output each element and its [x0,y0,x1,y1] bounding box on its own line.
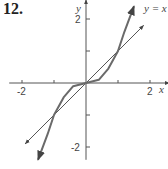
x-tick-label: -2 [17,86,26,97]
x-axis-label: x [158,83,164,95]
y-tick-label: 2 [75,14,81,25]
y-tick-label: -2 [71,142,80,153]
line-y-equals-x [25,25,143,143]
line-annotation: y = x [143,2,167,14]
y-axis-label: y [75,2,81,14]
x-tick-label: 2 [147,86,153,97]
graph: yx2-2-22y = x [0,0,168,169]
